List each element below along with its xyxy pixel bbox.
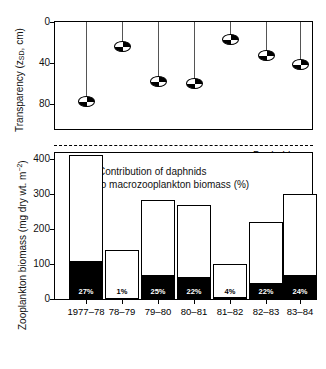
top-ytick-mark-40	[50, 63, 54, 64]
bottom-ytick-mark-0	[50, 299, 54, 300]
transparency-marker-81-82	[222, 34, 239, 45]
bar-label-78-79: 1%	[105, 288, 139, 296]
transparency-marker-78-79	[114, 41, 131, 52]
bottom-ytick-mark-100	[50, 264, 54, 265]
bar-label-83-84: 24%	[283, 288, 317, 296]
transparency-marker-83-84	[292, 59, 309, 70]
top-panel-y-axis-title: Transparency (zSD, cm)	[14, 28, 27, 132]
transparency-marker-1977-78	[78, 96, 95, 107]
top-panel-frame	[54, 21, 313, 130]
bottom-ytick-label-200: 200	[20, 224, 50, 234]
top-ytick-label-40: 40	[28, 58, 50, 68]
stem-1977-78	[86, 22, 87, 100]
bottom-ytick-mark-300	[50, 194, 54, 195]
figure-canvas: Transparency (zSD, cm) 0 40 80 Daphnids	[0, 0, 326, 369]
bottom-ytick-label-300: 300	[20, 189, 50, 199]
bottom-panel-y-axis-title: Zooplankton biomass (mg dry wt. m−2)	[14, 160, 28, 330]
bar-label-80-81: 22%	[177, 288, 211, 296]
bottom-ytick-label-400: 400	[20, 154, 50, 164]
panel-separator-dashed-line	[54, 145, 313, 146]
top-ytick-label-80: 80	[28, 99, 50, 109]
chart-annotation: Contribution of daphnids to macrozooplan…	[98, 166, 249, 191]
top-ytick-label-0: 0	[34, 17, 50, 27]
xtick-mark-4	[194, 300, 195, 304]
bottom-ytick-label-0: 0	[20, 294, 50, 304]
bar-label-79-80: 25%	[141, 288, 175, 296]
stem-83-84	[300, 22, 301, 62]
transparency-marker-82-83	[258, 50, 275, 61]
bar-label-82-83: 22%	[249, 288, 283, 296]
xtick-mark-5	[230, 300, 231, 304]
xtick-label-83-84: 83–84	[277, 307, 323, 317]
annotation-line-2: to macrozooplankton biomass (%)	[98, 179, 249, 192]
bottom-ytick-mark-400	[50, 159, 54, 160]
bottom-ytick-label-100: 100	[20, 259, 50, 269]
transparency-marker-79-80	[150, 76, 167, 87]
stem-79-80	[158, 22, 159, 80]
top-ytick-mark-0	[50, 22, 54, 23]
bottom-ytick-mark-200	[50, 229, 54, 230]
annotation-line-1: Contribution of daphnids	[98, 166, 249, 179]
xtick-mark-7	[300, 300, 301, 304]
xtick-mark-6	[266, 300, 267, 304]
stem-80-81	[194, 22, 195, 82]
bar-label-81-82: 4%	[213, 288, 247, 296]
xtick-mark-1	[86, 300, 87, 304]
bar-label-1977-78: 27%	[69, 288, 103, 296]
xtick-mark-3	[158, 300, 159, 304]
xtick-mark-2	[122, 300, 123, 304]
stem-82-83	[266, 22, 267, 53]
top-ytick-mark-80	[50, 104, 54, 105]
transparency-marker-80-81	[186, 78, 203, 89]
